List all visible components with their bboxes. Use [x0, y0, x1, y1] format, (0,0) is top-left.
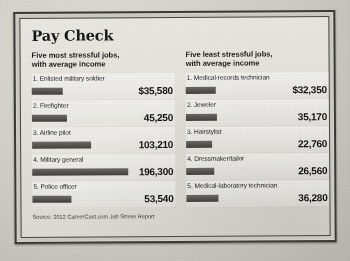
row-amount: $35,580	[138, 85, 174, 96]
value-bar	[32, 114, 67, 122]
row-amount: 22,760	[298, 138, 329, 149]
row-body: 45,250	[32, 110, 175, 125]
row-body: $32,350	[186, 82, 329, 97]
column-subhead-line2: with average income	[32, 59, 106, 68]
column-subhead-line2: with average income	[186, 58, 260, 67]
row-amount: $32,350	[292, 84, 328, 95]
columns-container: Five most stressful jobs, with average i…	[32, 49, 320, 210]
value-bar	[186, 167, 214, 175]
table-row: 5. Medical-laboratory technician 36,280	[186, 180, 329, 207]
row-body: $35,580	[32, 83, 175, 98]
value-bar	[32, 87, 63, 95]
row-label: 5. Police officer	[32, 181, 175, 191]
row-label: 2. Firefighter	[32, 100, 175, 110]
table-row: 4. Dressmaker/tailor 26,560	[186, 153, 329, 180]
row-amount: 45,250	[144, 112, 175, 123]
value-bar	[32, 168, 128, 176]
row-body: 35,170	[186, 109, 329, 124]
column-subhead: Five least stressful jobs, with average …	[186, 49, 329, 69]
table-row: 1. Medical-records technician $32,350	[186, 72, 329, 99]
column-subhead-line1: Five least stressful jobs,	[186, 49, 273, 59]
table-row: 5. Police officer 53,540	[32, 181, 175, 208]
column-least-stressful: Five least stressful jobs, with average …	[186, 49, 330, 209]
column-most-stressful: Five most stressful jobs, with average i…	[32, 50, 176, 210]
row-label: 2. Jeweler	[186, 99, 329, 109]
row-label: 4. Dressmaker/tailor	[186, 153, 329, 163]
infographic-panel: Pay Check Five most stressful jobs, with…	[19, 16, 330, 238]
value-bar	[186, 86, 216, 94]
photographed-page: Pay Check Five most stressful jobs, with…	[0, 0, 350, 261]
row-body: 26,560	[186, 163, 329, 178]
row-body: 196,300	[32, 164, 175, 179]
column-subhead-line1: Five most stressful jobs,	[32, 50, 120, 60]
row-body: 36,280	[186, 190, 329, 205]
row-label: 5. Medical-laboratory technician	[186, 180, 329, 190]
row-label: 3. Hairstylist	[186, 126, 329, 136]
row-body: 53,540	[32, 191, 175, 206]
row-body: 22,760	[186, 136, 329, 151]
value-bar	[186, 113, 217, 121]
table-row: 3. Airline pilot 103,210	[32, 127, 175, 154]
column-subhead: Five most stressful jobs, with average i…	[32, 50, 175, 70]
value-bar	[186, 194, 218, 202]
row-label: 1. Enlisted military soldier	[32, 73, 175, 83]
table-row: 4. Military general 196,300	[32, 154, 175, 181]
row-amount: 196,300	[139, 166, 175, 177]
row-label: 4. Military general	[32, 154, 175, 164]
table-row: 1. Enlisted military soldier $35,580	[32, 73, 175, 100]
row-amount: 26,560	[298, 165, 329, 176]
source-note: Source: 2012 CareerCast.com Job Stress R…	[33, 212, 320, 221]
table-row: 2. Firefighter 45,250	[32, 100, 175, 127]
row-amount: 103,210	[139, 139, 175, 150]
row-amount: 36,280	[298, 192, 329, 203]
row-body: 103,210	[32, 137, 175, 152]
table-row: 3. Hairstylist 22,760	[186, 126, 329, 153]
infographic-frame: Pay Check Five most stressful jobs, with…	[13, 10, 336, 244]
row-label: 3. Airline pilot	[32, 127, 175, 137]
row-amount: 53,540	[144, 193, 175, 204]
row-label: 1. Medical-records technician	[186, 72, 329, 82]
row-amount: 35,170	[298, 111, 329, 122]
value-bar	[32, 195, 71, 203]
page-title: Pay Check	[31, 27, 318, 43]
table-row: 2. Jeweler 35,170	[186, 99, 329, 126]
value-bar	[186, 140, 212, 148]
value-bar	[32, 141, 91, 149]
